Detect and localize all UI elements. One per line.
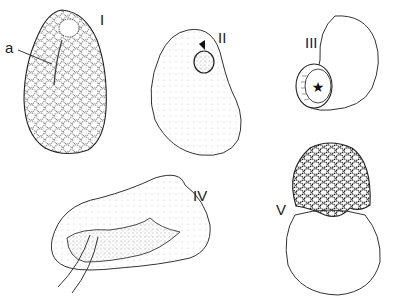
panel-V-body — [286, 143, 380, 295]
label-panel-V: V — [276, 202, 286, 217]
panel-I-spore — [18, 10, 106, 154]
label-panel-I: I — [100, 12, 104, 27]
label-panel-IV: IV — [193, 188, 207, 203]
panel-III-flask: ★ — [296, 16, 378, 110]
label-panel-III: III — [305, 35, 318, 50]
label-panel-II: II — [218, 30, 226, 45]
svg-text:★: ★ — [312, 79, 325, 95]
label-annotation-a: a — [5, 40, 13, 55]
panel-II-body — [151, 29, 241, 155]
panel-IV-body — [51, 175, 210, 293]
specimen-illustration: ★ — [0, 0, 415, 303]
